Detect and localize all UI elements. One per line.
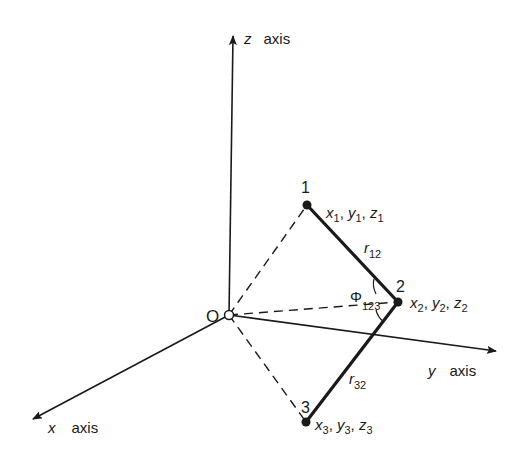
- y-axis-line: [229, 315, 496, 351]
- x-axis-line: [33, 315, 229, 419]
- atom-3-label: 3: [301, 399, 310, 416]
- atom-2-label: 2: [396, 278, 405, 295]
- atom-1: [303, 201, 312, 210]
- atom-2-coords: x2, y2, z2: [409, 294, 468, 314]
- origin-point: [225, 311, 234, 320]
- angle-arc-upper: [373, 279, 376, 294]
- atom-1-coords: x1, y1, z1: [325, 204, 384, 224]
- bond-r32: [306, 302, 398, 422]
- angle-label: Φ123: [350, 288, 380, 312]
- atom-1-label: 1: [301, 179, 310, 196]
- z-axis-label: zaxis: [243, 30, 290, 47]
- atom-3: [302, 418, 311, 427]
- atom-2: [394, 298, 403, 307]
- dashed-line-o-1: [229, 205, 307, 315]
- bond-r32-label: r32: [349, 370, 366, 391]
- y-axis-label: yaxis: [427, 362, 476, 379]
- origin-label: O: [206, 307, 219, 326]
- dashed-line-o-3: [229, 315, 306, 422]
- bond-r12-label: r12: [364, 239, 381, 260]
- z-axis-line: [229, 36, 233, 315]
- atom-3-coords: x3, y3, z3: [314, 416, 373, 436]
- x-axis-label: xaxis: [47, 419, 98, 436]
- coordinate-diagram: zaxis yaxis xaxis O 1 2 3 x1, y1, z1 x2,…: [0, 0, 522, 465]
